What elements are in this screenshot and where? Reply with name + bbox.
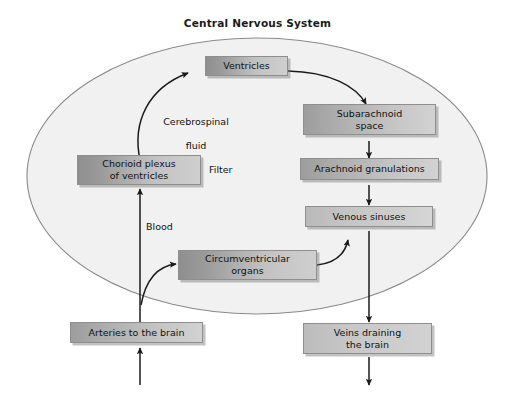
node-circumventricular-organs-label-line2: organs (231, 265, 263, 277)
edge-label-cerebrospinal-fluid-line1: Cerebrospinal (148, 116, 244, 128)
edge-label-blood: Blood (146, 221, 190, 233)
node-ventricles-label: Ventricles (223, 60, 270, 72)
node-veins-draining-the-brain[interactable]: Veins draining the brain (303, 323, 432, 354)
node-venous-sinuses[interactable]: Venous sinuses (305, 206, 433, 227)
node-venous-sinuses-label: Venous sinuses (333, 211, 406, 223)
node-arachnoid-granulations-label: Arachnoid granulations (314, 163, 424, 175)
node-chorioid-plexus-label-line2: of ventricles (110, 170, 169, 182)
node-subarachnoid-space[interactable]: Subarachnoid space (303, 104, 436, 135)
node-circumventricular-organs[interactable]: Circumventricular organs (178, 250, 317, 280)
edge-label-cerebrospinal-fluid-line2: fluid (148, 140, 244, 152)
node-subarachnoid-space-label-line2: space (356, 120, 384, 132)
node-subarachnoid-space-label-line1: Subarachnoid (337, 108, 402, 120)
node-arteries-to-the-brain-label: Arteries to the brain (89, 327, 185, 339)
node-arachnoid-granulations[interactable]: Arachnoid granulations (300, 158, 439, 180)
node-ventricles[interactable]: Ventricles (205, 56, 288, 76)
node-arteries-to-the-brain[interactable]: Arteries to the brain (70, 322, 203, 343)
diagram-canvas: Central Nervous System Ve (0, 0, 515, 394)
edge-label-cerebrospinal-fluid: Cerebrospinal fluid (148, 104, 244, 164)
node-veins-draining-the-brain-label-line1: Veins draining (334, 327, 401, 339)
edge-label-filter: Filter (209, 164, 253, 176)
node-veins-draining-the-brain-label-line2: the brain (346, 339, 389, 351)
node-circumventricular-organs-label-line1: Circumventricular (205, 253, 290, 265)
